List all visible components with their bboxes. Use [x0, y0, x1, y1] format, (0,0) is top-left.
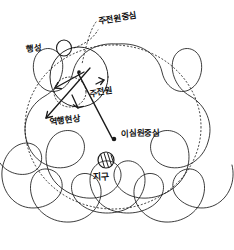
- label-planet: 행성: [26, 40, 42, 53]
- label-earth: 지구: [93, 170, 109, 184]
- diagram-canvas: 주전원중심 행성 주전원 역행현상 이심원중심 지구: [0, 0, 234, 250]
- leader-line-epicycle-center: [74, 22, 98, 64]
- planet-circle-marker: [57, 40, 72, 56]
- rosette-path: [0, 44, 233, 222]
- radius-line: [78, 73, 112, 138]
- eccentric-center-dot: [112, 137, 117, 142]
- earth-symbol-icon: [98, 152, 114, 168]
- diagram-artwork: [0, 0, 234, 250]
- label-eccentric-center: 이심원중심: [121, 125, 160, 138]
- deferent-dotted-circle: [25, 45, 201, 209]
- epicycle-circle: [50, 47, 108, 107]
- epicycle-center-dot: [77, 70, 81, 74]
